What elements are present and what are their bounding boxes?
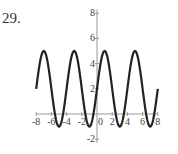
x-tick-label: -6 [47,116,55,127]
x-tick-label: -4 [62,116,70,127]
origin-label: 0 [98,116,103,127]
x-tick-label: 2 [110,116,115,127]
x-tick-label: -8 [32,116,40,127]
x-tick-label: 8 [155,116,160,127]
y-tick-label: 2 [90,83,95,94]
x-tick-label: -2 [78,116,86,127]
y-tick-label: 8 [90,7,95,18]
y-tick-label: 6 [90,32,95,43]
sine-plot: -8-6-4-224680-22468 [0,0,178,154]
y-tick-label: -2 [87,133,95,144]
x-tick-label: 4 [125,116,130,127]
y-tick-label: 4 [90,58,95,69]
x-tick-label: 6 [140,116,145,127]
